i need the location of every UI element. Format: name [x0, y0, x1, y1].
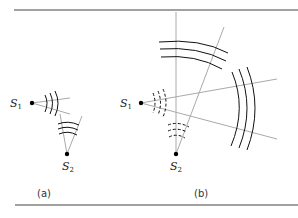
ray: [60, 114, 67, 154]
panel-b: S1 S2 (b): [120, 12, 277, 199]
wavefront: [153, 93, 155, 113]
wavefront: [231, 72, 239, 146]
wavefront: [163, 89, 166, 117]
ray: [32, 98, 70, 103]
ray: [141, 103, 277, 139]
wavefront: [168, 123, 189, 127]
source-dot-s1: [30, 101, 34, 105]
wavefront: [158, 91, 161, 115]
source-dot-s1: [139, 101, 143, 105]
panel-caption-b: (b): [194, 188, 208, 199]
wavefront: [161, 57, 222, 70]
ray: [141, 79, 277, 103]
wavefront: [58, 127, 78, 130]
ray: [176, 27, 224, 154]
source-label-s2: S2: [170, 160, 182, 174]
panel-caption-a: (a): [37, 188, 51, 199]
diagram-canvas: S1 S2 (a) S1 S2 (b): [0, 0, 298, 218]
source-label-s1: S1: [120, 97, 132, 111]
source-label-s1: S1: [10, 97, 22, 111]
wavefront: [55, 91, 58, 116]
source-dot-s2: [174, 152, 178, 156]
wavefront: [45, 95, 47, 112]
source-label-s2: S2: [62, 160, 74, 174]
wavefront: [239, 69, 247, 148]
wavefront: [160, 49, 226, 62]
wavefront: [58, 122, 79, 125]
wavefront: [50, 93, 53, 114]
panel-a: S1 S2 (a): [10, 91, 82, 199]
ray: [67, 116, 82, 154]
wavefront: [247, 67, 255, 150]
source-dot-s2: [65, 152, 69, 156]
